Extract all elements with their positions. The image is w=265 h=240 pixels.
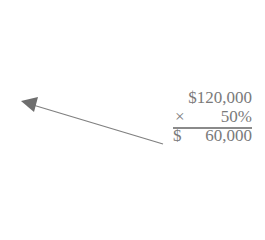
arrow-head	[21, 97, 38, 112]
multiply-operator: ×	[175, 107, 185, 126]
sum-rule	[173, 127, 252, 129]
arrow-shaft	[33, 105, 163, 144]
multiplier-line: × 50%	[173, 107, 252, 126]
result-value: 60,000	[205, 126, 252, 145]
result-currency: $	[173, 126, 182, 145]
result-line: $ 60,000	[173, 126, 252, 145]
percentage-value: 50%	[221, 107, 252, 126]
calculation-block: $120,000 × 50% $ 60,000	[173, 88, 252, 145]
amount-line: $120,000	[173, 88, 252, 107]
